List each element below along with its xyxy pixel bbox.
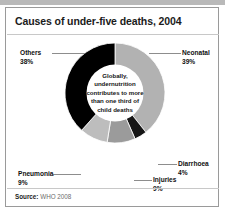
slice-label-diarrhoea-pct: 4% [178,169,209,178]
chart-figure-frame: Causes of under-five deaths, 2004 Global… [5,7,219,207]
slice-label-others-name: Others [20,49,41,56]
slice-label-pneumonia-name: Pneumonia [18,170,54,177]
source-divider [7,188,219,189]
slice-label-others: Others 38% [20,49,41,66]
slice-label-injuries: Injuries 9% [153,176,176,193]
donut-chart: Globally, undernutrition contributes to … [63,41,167,145]
top-gray-strip [0,0,225,5]
source-label: Source: [15,193,38,200]
leader-line-others [52,53,85,54]
figure-screenshot: Causes of under-five deaths, 2004 Global… [0,0,225,215]
slice-label-diarrhoea-name: Diarrhoea [178,160,209,167]
leader-line-neonatal [149,53,181,54]
leader-line-pneumonia [53,174,81,175]
slice-label-pneumonia: Pneumonia 9% [18,170,54,187]
source-note: Source: WHO 2008 [15,193,71,200]
slice-label-diarrhoea: Diarrhoea 4% [178,160,209,177]
leader-line-diarrhoea [158,164,177,165]
slice-label-injuries-name: Injuries [153,176,176,183]
slice-label-neonatal-pct: 39% [182,58,210,67]
donut-hole [87,65,144,122]
slice-label-pneumonia-pct: 9% [18,179,54,188]
slice-label-neonatal: Neonatal 39% [182,49,210,66]
slice-label-neonatal-name: Neonatal [182,49,210,56]
leader-line-injuries [134,180,152,181]
source-value: WHO 2008 [40,193,71,200]
page-title: Causes of under-five deaths, 2004 [15,15,182,27]
donut-svg [63,41,167,145]
slice-label-others-pct: 38% [20,58,41,67]
title-divider [7,34,219,35]
